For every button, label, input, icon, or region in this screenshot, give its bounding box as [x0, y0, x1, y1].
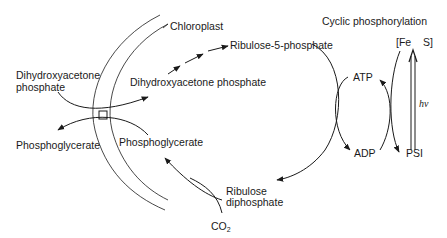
- ribulose-5-phosphate-label: Ribulose-5-phosphate: [230, 39, 333, 51]
- rudp-to-pga-arrow: [165, 158, 222, 200]
- calvin-cycle-diagram: Chloroplast Cyclic phosphorylation Dihyd…: [0, 0, 447, 238]
- dhap-dash-3: [208, 46, 228, 51]
- cyclic-phosphorylation-label: Cyclic phosphorylation: [322, 15, 427, 27]
- fes-close-label: S]: [423, 36, 433, 48]
- diagram-lines: [0, 0, 447, 238]
- dhap-inside-label: Dihydroxyacetone phosphate: [130, 76, 266, 88]
- co2-line: [190, 178, 222, 213]
- psi-label: PSI: [406, 147, 423, 159]
- r5p-to-rudp-arrow: [277, 44, 339, 180]
- chloroplast-label: Chloroplast: [170, 20, 223, 32]
- pga-outside-label: Phosphoglycerate: [16, 139, 100, 151]
- dhap-dash-2: [185, 54, 203, 63]
- pga-inside-label: Phosphoglycerate: [119, 136, 203, 148]
- pga-export-arrow: [58, 117, 148, 135]
- dhap-export-arrow: [58, 92, 148, 108]
- adp-label: ADP: [354, 147, 376, 159]
- co2-main: CO: [211, 220, 227, 232]
- fes-open-label: [Fe: [396, 36, 411, 48]
- fes-to-psi-arrow: [391, 51, 400, 152]
- dhap-outside-label-line2: phosphate: [16, 81, 65, 93]
- chloroplast-inner-membrane: [110, 24, 168, 200]
- adp-to-atp-arrow: [380, 80, 390, 150]
- hv-arrowhead: [409, 50, 417, 62]
- hv-label: hv: [419, 98, 428, 110]
- co2-subscript: 2: [227, 226, 231, 233]
- atp-label: ATP: [353, 71, 373, 83]
- rudp-label-line2: diphosphate: [226, 196, 283, 208]
- dhap-dash-1: [168, 66, 180, 74]
- co2-label: CO2: [211, 220, 231, 236]
- dhap-outside-label-line1: Dihydroxyacetone: [16, 69, 100, 81]
